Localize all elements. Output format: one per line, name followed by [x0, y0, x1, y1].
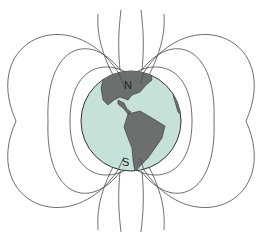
magnetic-field-diagram: N S — [0, 0, 263, 243]
north-pole-label: N — [124, 79, 132, 91]
earth-globe — [81, 68, 184, 172]
south-pole-label: S — [122, 156, 129, 168]
